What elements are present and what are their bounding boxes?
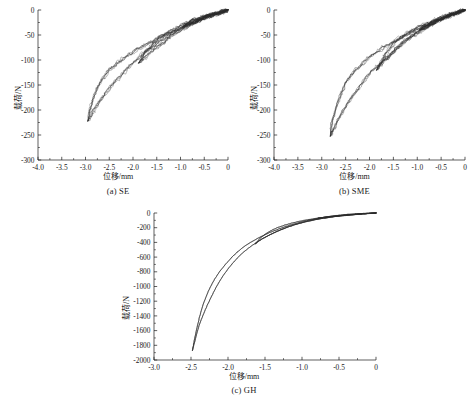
svg-text:-2000: -2000 — [133, 356, 151, 365]
y-axis-title-se: 载荷/N — [12, 86, 23, 110]
caption-gh: (c) GH — [104, 385, 384, 395]
svg-text:-400: -400 — [137, 238, 151, 247]
svg-text:0: 0 — [31, 6, 35, 15]
svg-text:0: 0 — [267, 6, 271, 15]
svg-text:-1600: -1600 — [133, 326, 151, 335]
caption-se: (a) SE — [0, 186, 236, 196]
svg-text:-1400: -1400 — [133, 312, 151, 321]
panel-se: -4.0-3.5-3.0-2.5-2.0-1.5-1.0-0.500-50-10… — [0, 0, 236, 205]
caption-sme: (b) SME — [236, 186, 473, 196]
svg-text:-200: -200 — [21, 106, 35, 115]
svg-text:-100: -100 — [257, 56, 271, 65]
svg-text:-200: -200 — [257, 106, 271, 115]
svg-text:-100: -100 — [21, 56, 35, 65]
plot-area-gh: -3.0-2.5-2.0-1.5-1.0-0.500-200-400-600-8… — [104, 205, 384, 409]
svg-text:-800: -800 — [137, 267, 151, 276]
svg-text:-50: -50 — [261, 31, 271, 40]
plot-area-se: -4.0-3.5-3.0-2.5-2.0-1.5-1.0-0.500-50-10… — [0, 0, 236, 205]
svg-text:-1200: -1200 — [133, 297, 151, 306]
svg-text:-150: -150 — [21, 81, 35, 90]
svg-text:-300: -300 — [257, 156, 271, 165]
svg-text:-50: -50 — [25, 31, 35, 40]
svg-text:-250: -250 — [21, 131, 35, 140]
y-axis-title-sme: 载荷/N — [248, 86, 259, 110]
svg-text:0: 0 — [147, 209, 151, 218]
figure-load-displacement-hysteresis: -4.0-3.5-3.0-2.5-2.0-1.5-1.0-0.500-50-10… — [0, 0, 473, 409]
x-axis-title-sme: 位移/mm — [236, 170, 473, 181]
panel-gh: -3.0-2.5-2.0-1.5-1.0-0.500-200-400-600-8… — [104, 205, 384, 409]
plot-area-sme: -4.0-3.5-3.0-2.5-2.0-1.5-1.0-0.500-50-10… — [236, 0, 473, 205]
panel-sme: -4.0-3.5-3.0-2.5-2.0-1.5-1.0-0.500-50-10… — [236, 0, 473, 205]
x-axis-title-gh: 位移/mm — [104, 370, 384, 381]
svg-text:-250: -250 — [257, 131, 271, 140]
svg-text:-1800: -1800 — [133, 341, 151, 350]
svg-text:-1000: -1000 — [133, 282, 151, 291]
svg-text:-600: -600 — [137, 253, 151, 262]
svg-text:-300: -300 — [21, 156, 35, 165]
y-axis-title-gh: 载荷/N — [120, 296, 131, 320]
svg-text:-200: -200 — [137, 223, 151, 232]
svg-text:-150: -150 — [257, 81, 271, 90]
x-axis-title-se: 位移/mm — [0, 170, 236, 181]
